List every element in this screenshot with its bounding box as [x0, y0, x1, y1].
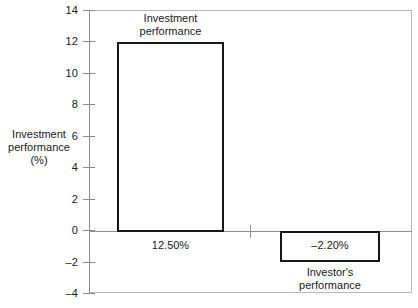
y-axis-tick-label: 12	[66, 36, 78, 47]
bar-2-value-label: –2.20%	[280, 239, 380, 252]
y-axis-tick-label: 0	[72, 225, 78, 236]
bar-2-category-label: Investor's performance	[275, 266, 385, 292]
y-axis-tick-mark	[83, 136, 95, 137]
y-axis-tick-label: 14	[66, 5, 78, 16]
y-axis-tick-mark	[83, 104, 95, 105]
y-axis-tick-label: 10	[66, 68, 78, 79]
y-axis-tick-mark	[83, 262, 95, 263]
y-axis-tick-mark	[83, 293, 95, 294]
y-axis-tick-mark	[83, 10, 95, 11]
bar-1-category-label: Investment performance	[117, 12, 224, 38]
y-axis-title: Investment performance (%)	[0, 128, 78, 167]
y-axis-tick-label: –2	[66, 257, 78, 268]
investment-performance-bar-chart: 14121086420–2–4 Investment performance 1…	[0, 0, 418, 308]
y-axis-line	[89, 10, 90, 293]
y-axis-tick-label: 8	[72, 99, 78, 110]
y-axis-tick-mark	[83, 167, 95, 168]
bar-investment-performance	[117, 42, 224, 232]
y-axis-tick-mark	[83, 73, 95, 74]
y-axis-tick-label: 2	[72, 194, 78, 205]
y-axis-tick-label: –4	[66, 288, 78, 299]
y-axis-tick-mark	[83, 41, 95, 42]
zero-baseline-tick	[250, 225, 251, 238]
bar-1-value-label: 12.50%	[117, 239, 224, 252]
y-axis-tick-mark	[83, 199, 95, 200]
